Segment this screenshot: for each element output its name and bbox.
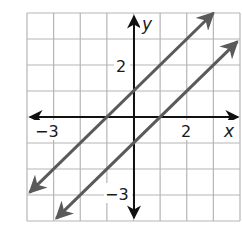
x-axis-label: x bbox=[223, 121, 235, 141]
coordinate-graph: −3 2 2 −3 y x bbox=[0, 0, 242, 240]
x-tick-label-2: 2 bbox=[181, 122, 191, 141]
y-axis-label: y bbox=[141, 14, 153, 34]
line-2 bbox=[56, 42, 237, 219]
y-tick-label-2: 2 bbox=[116, 57, 126, 76]
x-tick-label-neg3: −3 bbox=[35, 122, 59, 141]
line-1 bbox=[30, 13, 214, 192]
y-tick-label-neg3: −3 bbox=[105, 185, 129, 204]
